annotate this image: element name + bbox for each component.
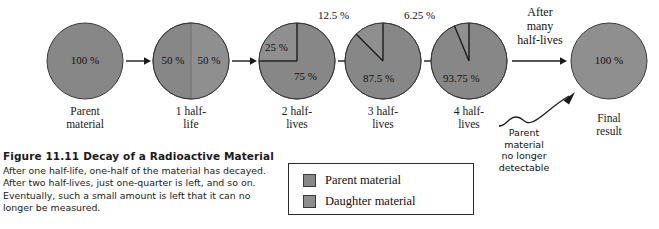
caption-figure-title: Decay of a Radioactive Material bbox=[83, 150, 274, 162]
callout-squiggle-arrow bbox=[497, 86, 589, 130]
arrow-2 bbox=[232, 56, 258, 66]
figure-decay-of-radioactive-material: 100 % Parent material 50 % 50 % 1 half- … bbox=[0, 0, 659, 229]
pie-inside-label-final-100: 100 % bbox=[570, 54, 648, 66]
pie-inside-label-75: 75 % bbox=[294, 70, 317, 82]
stage-parent-material: 100 % bbox=[46, 22, 124, 100]
stage-3-half-lives: 87.5 % bbox=[344, 22, 422, 100]
stage-1-half-life: 50 % 50 % bbox=[152, 22, 230, 100]
pie-outside-label-6-25: 6.25 % bbox=[404, 9, 435, 21]
legend-swatch-daughter-icon bbox=[303, 195, 316, 208]
stage-label-1-half-life: 1 half- life bbox=[146, 105, 236, 131]
legend-swatch-parent-icon bbox=[303, 174, 316, 187]
pie-inside-label-100: 100 % bbox=[46, 54, 124, 66]
arrow-5-long bbox=[512, 56, 568, 66]
legend-label-daughter-material: Daughter material bbox=[325, 194, 416, 209]
legend-item-parent-material: Parent material bbox=[303, 170, 473, 191]
caption-heading: Figure 11.11Decay of a Radioactive Mater… bbox=[3, 150, 279, 162]
caption-figure-number: Figure 11.11 bbox=[3, 150, 79, 162]
pie-inside-label-50-right: 50 % bbox=[191, 54, 227, 66]
pie-inside-label-87-5: 87.5 % bbox=[363, 72, 394, 84]
legend-item-daughter-material: Daughter material bbox=[303, 191, 473, 212]
stage-label-parent-material: Parent material bbox=[40, 105, 130, 131]
pie-outside-label-12-5: 12.5 % bbox=[318, 9, 349, 21]
annotation-parent-no-longer-detectable: Parent material no longer detectable bbox=[478, 127, 570, 173]
pie-inside-label-50-left: 50 % bbox=[155, 54, 191, 66]
figure-caption: Figure 11.11Decay of a Radioactive Mater… bbox=[3, 150, 279, 215]
stage-label-2-half-lives: 2 half- lives bbox=[252, 105, 342, 131]
pie-inside-label-25: 25 % bbox=[265, 41, 288, 53]
pie-inside-label-93-75: 93.75 % bbox=[443, 72, 480, 84]
pie-chart-stage-4 bbox=[344, 22, 422, 100]
caption-body-text: After one half-life, one-half of the mat… bbox=[3, 165, 279, 215]
stage-label-3-half-lives: 3 half- lives bbox=[338, 105, 428, 131]
stage-2-half-lives: 25 % 75 % bbox=[258, 22, 336, 100]
arrow-1 bbox=[126, 56, 152, 66]
legend-box: Parent material Daughter material bbox=[288, 163, 474, 215]
pie-chart-stage-3 bbox=[258, 22, 336, 100]
legend-label-parent-material: Parent material bbox=[325, 173, 401, 188]
